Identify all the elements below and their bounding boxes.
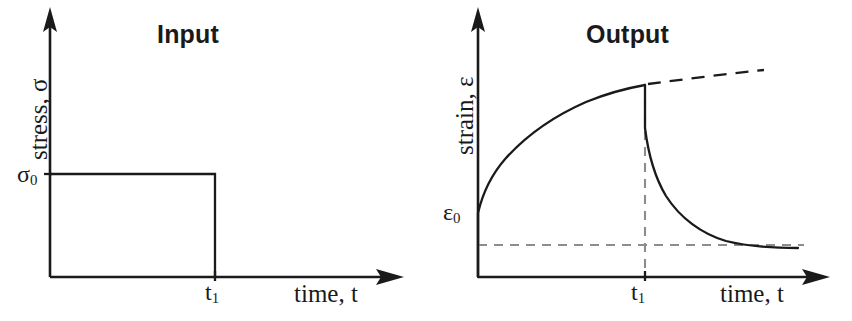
panel-output: Output strain, ε ε0 t1 time, t bbox=[426, 0, 852, 321]
output-x-axis-label: time, t bbox=[720, 281, 784, 306]
output-y-axis-label: strain, ε bbox=[452, 76, 477, 155]
input-panel-title: Input bbox=[157, 22, 219, 47]
output-t1-tick-label: t1 bbox=[631, 280, 645, 306]
input-t1-tick-label: t1 bbox=[205, 280, 219, 306]
input-stress-step-curve bbox=[50, 174, 215, 277]
panel-input: Input stress, σ σ0 t1 time, t bbox=[0, 0, 426, 321]
output-panel-title: Output bbox=[586, 22, 669, 47]
input-x-axis-label: time, t bbox=[294, 281, 358, 306]
output-creep-extrapolation-dashed bbox=[648, 70, 764, 84]
output-creep-curve bbox=[478, 85, 645, 277]
output-recovery-curve bbox=[645, 85, 798, 248]
creep-recovery-figure: Input stress, σ σ0 t1 time, t bbox=[0, 0, 852, 321]
input-sigma0-tick-label: σ0 bbox=[17, 162, 37, 188]
input-plot-svg bbox=[0, 0, 426, 321]
output-eps0-tick-label: ε0 bbox=[443, 200, 461, 226]
input-y-axis-label: stress, σ bbox=[26, 78, 51, 160]
output-plot-svg bbox=[426, 0, 852, 321]
